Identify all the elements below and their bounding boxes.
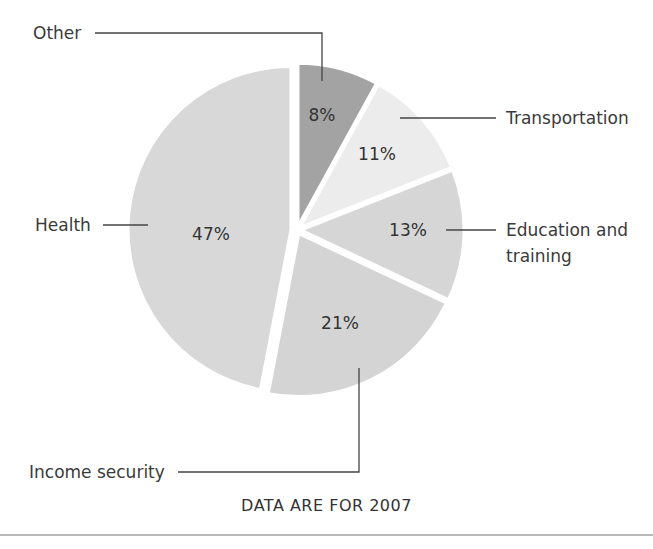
pct-education: 13% <box>389 220 427 240</box>
chart-caption: DATA ARE FOR 2007 <box>0 496 653 515</box>
pct-health: 47% <box>192 224 230 244</box>
pct-transportation: 11% <box>358 144 396 164</box>
pct-other: 8% <box>309 105 336 125</box>
label-health: Health <box>35 214 91 236</box>
label-education-line2: training <box>506 245 572 267</box>
divider-rule <box>0 534 653 536</box>
label-education-line1: Education and <box>506 219 628 241</box>
label-transportation: Transportation <box>506 107 629 129</box>
label-income-security: Income security <box>29 461 165 483</box>
pct-income-security: 21% <box>321 313 359 333</box>
label-other: Other <box>33 22 81 44</box>
